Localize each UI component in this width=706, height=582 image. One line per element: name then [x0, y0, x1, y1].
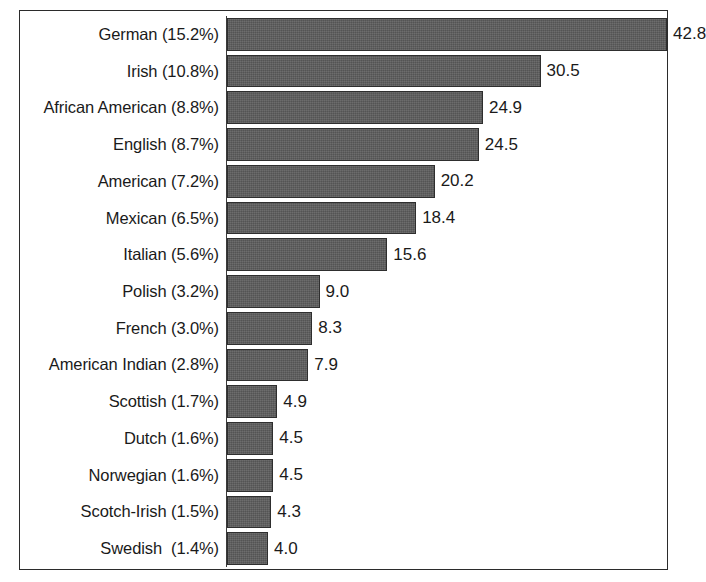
- bar-track: 4.3: [227, 494, 667, 531]
- bar: [227, 275, 320, 308]
- bar-plot-lane: 20.2: [226, 163, 667, 200]
- bar-value-label: 4.3: [271, 502, 301, 522]
- bar: [227, 496, 271, 529]
- bar-row: Dutch (1.6%)4.5: [20, 420, 667, 457]
- chart-frame: German (15.2%)42.8Irish (10.8%)30.5Afric…: [19, 10, 668, 570]
- bar-plot-lane: 24.9: [226, 89, 667, 126]
- bar: [227, 165, 435, 198]
- bar-plot-lane: 7.9: [226, 347, 667, 384]
- bar-track: 8.3: [227, 310, 667, 347]
- bar-value-label: 8.3: [312, 318, 342, 338]
- bar: [227, 18, 667, 51]
- bar-category-label: Mexican (6.5%): [20, 200, 226, 237]
- bar-value-label: 4.5: [273, 465, 303, 485]
- bar-value-label: 7.9: [308, 355, 338, 375]
- bar-plot-lane: 4.0: [226, 530, 667, 567]
- bar-track: 15.6: [227, 236, 667, 273]
- bar: [227, 128, 479, 161]
- bar-value-label: 42.8: [667, 24, 706, 44]
- bar-value-label: 30.5: [541, 61, 580, 81]
- bar-row: African American (8.8%)24.9: [20, 89, 667, 126]
- bar-track: 24.5: [227, 126, 667, 163]
- bar-plot-lane: 15.6: [226, 236, 667, 273]
- bar-row: Scottish (1.7%)4.9: [20, 383, 667, 420]
- bar-row: Polish (3.2%)9.0: [20, 273, 667, 310]
- bar-row: Italian (5.6%)15.6: [20, 236, 667, 273]
- bar-value-label: 20.2: [435, 171, 474, 191]
- bar-category-label: African American (8.8%): [20, 89, 226, 126]
- bar-track: 20.2: [227, 163, 667, 200]
- bar-value-label: 24.5: [479, 135, 518, 155]
- bar-category-label: Polish (3.2%): [20, 273, 226, 310]
- bar-row: Mexican (6.5%)18.4: [20, 200, 667, 237]
- bar-category-label: Irish (10.8%): [20, 53, 226, 90]
- bar-value-label: 24.9: [483, 98, 522, 118]
- bar-track: 42.8: [227, 16, 667, 53]
- bar-row: American Indian (2.8%)7.9: [20, 347, 667, 384]
- bar-category-label: Scottish (1.7%): [20, 383, 226, 420]
- bar-row: English (8.7%)24.5: [20, 126, 667, 163]
- bar-track: 18.4: [227, 200, 667, 237]
- bar-value-label: 4.9: [277, 392, 307, 412]
- bar-plot-lane: 24.5: [226, 126, 667, 163]
- bar-category-label: Swedish (1.4%): [20, 530, 226, 567]
- bar-category-label: English (8.7%): [20, 126, 226, 163]
- bar: [227, 312, 312, 345]
- bar-plot-lane: 18.4: [226, 200, 667, 237]
- bar-row: German (15.2%)42.8: [20, 16, 667, 53]
- bar-row: Norwegian (1.6%)4.5: [20, 457, 667, 494]
- bar-category-label: American Indian (2.8%): [20, 347, 226, 384]
- bar-plot-lane: 4.3: [226, 494, 667, 531]
- bar-plot-lane: 4.5: [226, 457, 667, 494]
- bar: [227, 459, 273, 492]
- bar-plot-lane: 4.5: [226, 420, 667, 457]
- bar-row: Swedish (1.4%)4.0: [20, 530, 667, 567]
- bar-track: 4.9: [227, 383, 667, 420]
- bar-row: Irish (10.8%)30.5: [20, 53, 667, 90]
- bar-track: 24.9: [227, 89, 667, 126]
- bar-row: Scotch-Irish (1.5%)4.3: [20, 494, 667, 531]
- bar-category-label: Scotch-Irish (1.5%): [20, 494, 226, 531]
- bar: [227, 91, 483, 124]
- bar-track: 9.0: [227, 273, 667, 310]
- bar-category-label: Italian (5.6%): [20, 236, 226, 273]
- bar: [227, 238, 387, 271]
- bar: [227, 202, 416, 235]
- bar-row: American (7.2%)20.2: [20, 163, 667, 200]
- bar-value-label: 4.5: [273, 428, 303, 448]
- bar: [227, 532, 268, 565]
- bar-plot-lane: 4.9: [226, 383, 667, 420]
- bar-track: 4.5: [227, 457, 667, 494]
- bar-row: French (3.0%)8.3: [20, 310, 667, 347]
- bar: [227, 55, 541, 88]
- bar-category-label: German (15.2%): [20, 16, 226, 53]
- bar: [227, 422, 273, 455]
- bar-value-label: 9.0: [320, 282, 350, 302]
- bar-category-label: American (7.2%): [20, 163, 226, 200]
- bar-track: 4.0: [227, 530, 667, 567]
- bar-category-label: Norwegian (1.6%): [20, 457, 226, 494]
- bar-value-label: 18.4: [416, 208, 455, 228]
- bar-value-label: 4.0: [268, 539, 298, 559]
- bar-plot-lane: 30.5: [226, 53, 667, 90]
- bar-track: 7.9: [227, 347, 667, 384]
- bar-plot-lane: 9.0: [226, 273, 667, 310]
- bar-plot-lane: 42.8: [226, 16, 667, 53]
- bar-value-label: 15.6: [387, 245, 426, 265]
- bar: [227, 385, 277, 418]
- bar-category-label: French (3.0%): [20, 310, 226, 347]
- bar-track: 30.5: [227, 53, 667, 90]
- bar-chart-plot-area: German (15.2%)42.8Irish (10.8%)30.5Afric…: [20, 11, 667, 569]
- bar: [227, 349, 308, 382]
- bar-plot-lane: 8.3: [226, 310, 667, 347]
- bar-category-label: Dutch (1.6%): [20, 420, 226, 457]
- bar-track: 4.5: [227, 420, 667, 457]
